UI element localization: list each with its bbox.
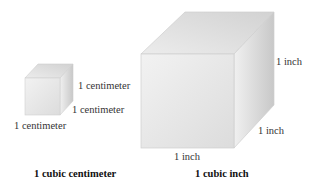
large-cube-height-label: 1 inch (276, 56, 302, 68)
large-cube-caption: 1 cubic inch (195, 168, 249, 180)
small-cube-front-face (25, 78, 60, 115)
small-cube-height-label: 1 centimeter (78, 80, 130, 92)
cubes-illustration (0, 0, 318, 185)
large-cube-width-label: 1 inch (174, 151, 200, 163)
small-cube-width-label: 1 centimeter (14, 120, 66, 132)
small-cube-caption: 1 cubic centimeter (34, 168, 116, 180)
large-cube (141, 12, 274, 148)
large-cube-depth-label: 1 inch (258, 125, 284, 137)
large-cube-front-face (141, 54, 234, 148)
small-cube (25, 64, 73, 115)
small-cube-depth-label: 1 centimeter (72, 104, 124, 116)
